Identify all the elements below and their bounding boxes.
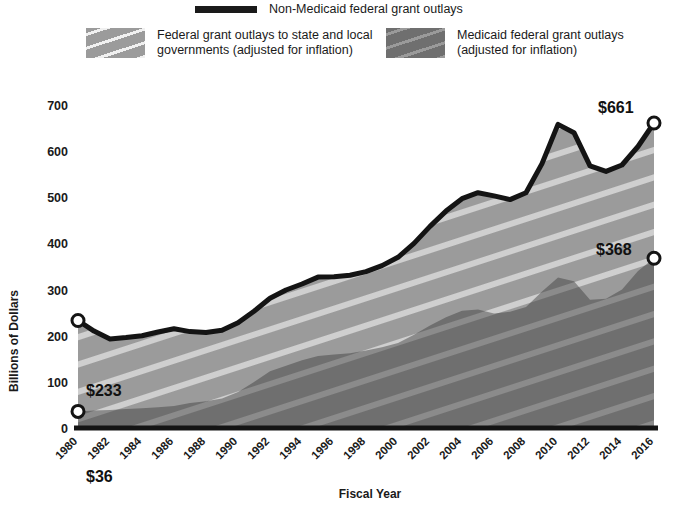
chart-legend: Non-Medicaid federal grant outlays Feder…: [0, 0, 684, 86]
x-tick-1994: 1994: [277, 435, 304, 462]
x-tick-1990: 1990: [213, 435, 240, 462]
data-point-marker: [648, 252, 660, 264]
x-tick-2010: 2010: [533, 435, 560, 462]
x-tick-1996: 1996: [309, 435, 336, 462]
data-point-marker: [648, 117, 660, 129]
x-tick-1984: 1984: [117, 435, 144, 462]
x-tick-2014: 2014: [597, 435, 624, 462]
x-tick-1982: 1982: [85, 435, 112, 462]
legend-swatch-total-icon: [86, 28, 145, 58]
label-medicaid-start: $36: [86, 468, 113, 485]
x-tick-1992: 1992: [245, 435, 272, 462]
y-axis-tick-labels: 7006005004003002001000: [47, 99, 68, 436]
x-tick-2006: 2006: [469, 435, 496, 462]
x-axis-title: Fiscal Year: [339, 487, 402, 501]
x-tick-1980: 1980: [53, 435, 80, 462]
legend-line-swatch-icon: [195, 6, 257, 13]
chart-plot-area: 7006005004003002001000 19801982198419861…: [0, 86, 684, 514]
x-tick-1998: 1998: [341, 435, 368, 462]
y-tick-400: 400: [47, 237, 68, 251]
legend-label-medicaid: Medicaid federal grant outlays (adjusted…: [457, 28, 624, 58]
label-medicaid-end: $368: [596, 241, 632, 258]
y-axis-title: Billions of Dollars: [7, 290, 21, 392]
y-tick-300: 300: [47, 284, 68, 298]
x-tick-2012: 2012: [565, 435, 592, 462]
label-total-end: $661: [598, 99, 634, 116]
legend-item-non-medicaid: Non-Medicaid federal grant outlays: [195, 2, 463, 17]
y-tick-500: 500: [47, 191, 68, 205]
data-point-marker: [72, 314, 84, 326]
y-tick-0: 0: [61, 422, 68, 436]
chart-page: Non-Medicaid federal grant outlays Feder…: [0, 0, 684, 514]
x-tick-2000: 2000: [373, 435, 400, 462]
label-total-start: $233: [86, 382, 122, 399]
x-tick-2002: 2002: [405, 435, 432, 462]
y-tick-600: 600: [47, 145, 68, 159]
legend-swatch-medicaid-icon: [386, 28, 445, 58]
y-tick-100: 100: [47, 376, 68, 390]
x-tick-1986: 1986: [149, 435, 176, 462]
area-chart: 7006005004003002001000 19801982198419861…: [0, 86, 684, 514]
y-tick-200: 200: [47, 330, 68, 344]
legend-item-total-outlays: Federal grant outlays to state and local…: [86, 28, 372, 58]
x-tick-2004: 2004: [437, 435, 464, 462]
legend-label-total-outlays: Federal grant outlays to state and local…: [157, 28, 372, 58]
x-axis-tick-labels: 1980198219841986198819901992199419961998…: [53, 435, 656, 462]
legend-item-medicaid: Medicaid federal grant outlays (adjusted…: [386, 28, 624, 58]
y-tick-700: 700: [47, 99, 68, 113]
x-tick-1988: 1988: [181, 435, 208, 462]
data-point-marker: [72, 405, 84, 417]
x-tick-2016: 2016: [629, 435, 656, 462]
legend-label-non-medicaid: Non-Medicaid federal grant outlays: [269, 2, 463, 17]
x-tick-2008: 2008: [501, 435, 528, 462]
